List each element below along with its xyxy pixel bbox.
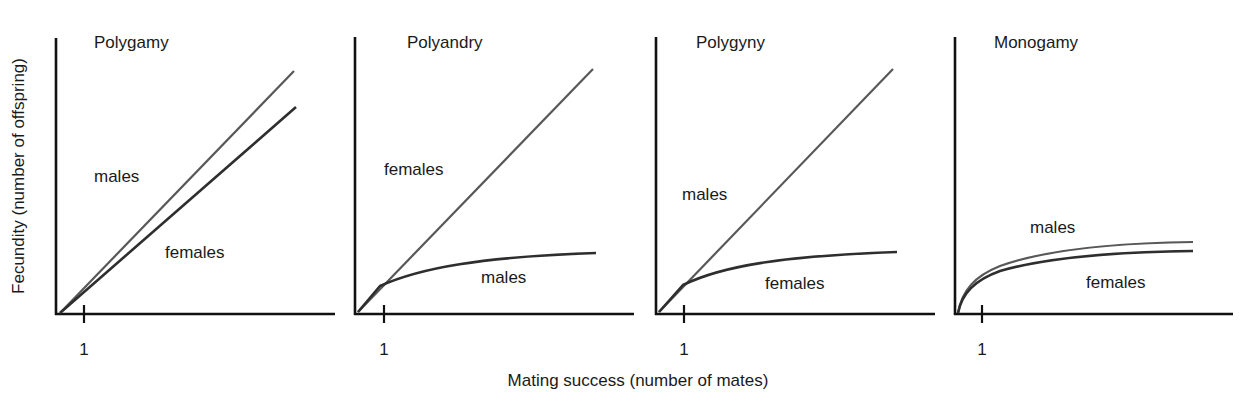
x-tick-label: 1 <box>79 340 88 359</box>
x-tick-label: 1 <box>977 340 986 359</box>
series-label-females: females <box>384 160 444 179</box>
y-axis-title: Fecundity (number of offspring) <box>9 58 28 294</box>
series-label-males: males <box>94 167 139 186</box>
panel-title: Monogamy <box>994 33 1079 52</box>
females-line <box>358 69 593 312</box>
series-label-females: females <box>765 274 825 293</box>
mating-system-figure: Fecundity (number of offspring) Mating s… <box>0 0 1260 407</box>
panel-title: Polygamy <box>94 33 169 52</box>
panel-polygyny: 1 Polygyny males females <box>655 33 935 359</box>
series-label-males: males <box>481 268 526 287</box>
males-line <box>60 71 294 313</box>
panel-title: Polyandry <box>407 33 483 52</box>
series-label-females: females <box>1086 273 1146 292</box>
females-line <box>60 107 296 313</box>
females-curve <box>958 251 1193 313</box>
panel-monogamy: 1 Monogamy males females <box>954 33 1233 359</box>
x-axis-title: Mating success (number of mates) <box>508 371 769 390</box>
males-curve <box>358 253 596 312</box>
x-tick-label: 1 <box>679 340 688 359</box>
series-label-females: females <box>165 243 225 262</box>
panel-polygamy: 1 Polygamy males females <box>55 33 335 359</box>
panel-polyandry: 1 Polyandry females males <box>354 33 634 359</box>
series-label-males: males <box>682 185 727 204</box>
series-label-males: males <box>1030 218 1075 237</box>
panel-title: Polygyny <box>696 33 765 52</box>
x-tick-label: 1 <box>379 340 388 359</box>
